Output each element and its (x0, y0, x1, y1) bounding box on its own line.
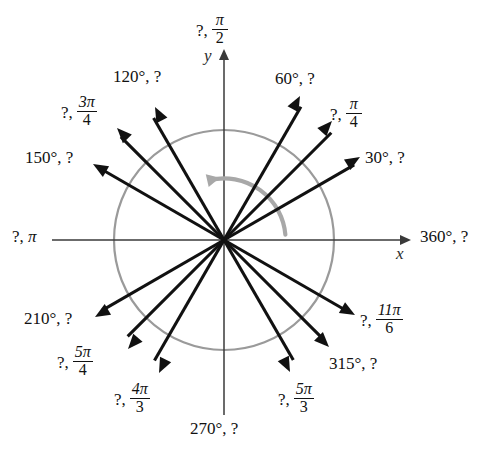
angle-label-360: 360°, ? (420, 228, 468, 246)
angle-label-degrees-240: ?, (114, 391, 126, 409)
angle-label-30: 30°, ? (365, 149, 405, 167)
angle-label-text-120: 120°, ? (113, 68, 161, 86)
angle-label-text-270: 270°, ? (190, 420, 238, 438)
fraction-denominator: 3 (298, 399, 310, 416)
fraction-denominator: 4 (77, 362, 89, 379)
angle-label-text-30: 30°, ? (365, 149, 405, 167)
ray-arrowhead-150 (93, 164, 109, 177)
x-axis-label: x (396, 244, 404, 264)
angle-label-text-315: 315°, ? (329, 355, 377, 373)
angle-label-330: ?,11π6 (360, 303, 403, 338)
ray-arrowhead-300 (278, 356, 290, 372)
fraction-numerator: 11π (376, 302, 403, 318)
angle-label-300: ?,5π3 (278, 382, 314, 417)
radian-fraction-90: π2 (212, 12, 228, 47)
angle-label-text-210: 210°, ? (24, 310, 72, 328)
unit-circle-figure: 30°, ??,π460°, ??,π2120°, ??,3π4150°, ??… (0, 0, 495, 456)
angle-label-degrees-330: ?, (360, 312, 372, 330)
angle-label-135: ?,3π4 (61, 95, 97, 130)
angle-label-degrees-300: ?, (278, 391, 290, 409)
angle-label-degrees-135: ?, (61, 104, 73, 122)
radian-fraction-225: 5π4 (73, 344, 93, 379)
fraction-numerator: π (214, 12, 226, 28)
fraction-numerator: 5π (73, 344, 93, 360)
fraction-numerator: 3π (77, 94, 97, 110)
ray-arrowhead-240 (159, 357, 171, 373)
angle-label-180: ?, π (12, 228, 37, 246)
fraction-numerator: 4π (130, 381, 150, 397)
angle-label-150: 150°, ? (25, 149, 73, 167)
ray-arrowhead-135 (117, 128, 132, 143)
fraction-denominator: 3 (134, 399, 146, 416)
angle-label-270: 270°, ? (190, 420, 238, 438)
angle-ray-30 (224, 157, 360, 240)
angle-label-45: ?,π4 (330, 97, 362, 132)
angle-label-text-360: 360°, ? (420, 228, 468, 246)
fraction-denominator: 4 (348, 114, 360, 131)
angle-label-120: 120°, ? (113, 68, 161, 86)
angle-label-315: 315°, ? (329, 355, 377, 373)
radian-fraction-300: 5π3 (294, 381, 314, 416)
y-axis-arrowhead (219, 49, 229, 60)
y-axis-label: y (204, 46, 212, 66)
radian-fraction-135: 3π4 (77, 94, 97, 129)
angle-label-225: ?,5π4 (57, 345, 93, 380)
radian-fraction-330: 11π6 (376, 302, 403, 337)
fraction-denominator: 6 (383, 320, 395, 337)
ray-arrowhead-120 (155, 107, 167, 123)
angle-label-degrees-225: ?, (57, 354, 69, 372)
angle-label-degrees-45: ?, (330, 106, 342, 124)
angle-ray-225 (128, 240, 224, 349)
angle-label-degrees-90: ?, (196, 22, 208, 40)
angle-label-text-180: ?, π (12, 228, 37, 246)
angle-label-240: ?,4π3 (114, 382, 150, 417)
radian-fraction-240: 4π3 (130, 381, 150, 416)
angle-label-210: 210°, ? (24, 310, 72, 328)
angle-label-text-60: 60°, ? (275, 70, 315, 88)
angle-label-90: ?,π2 (196, 13, 228, 48)
angle-label-60: 60°, ? (275, 70, 315, 88)
fraction-denominator: 2 (214, 30, 226, 47)
ray-arrowhead-60 (288, 96, 300, 112)
fraction-numerator: π (348, 96, 360, 112)
fraction-numerator: 5π (294, 381, 314, 397)
angle-label-text-150: 150°, ? (25, 149, 73, 167)
radian-fraction-45: π4 (346, 96, 362, 131)
fraction-denominator: 4 (81, 112, 93, 129)
